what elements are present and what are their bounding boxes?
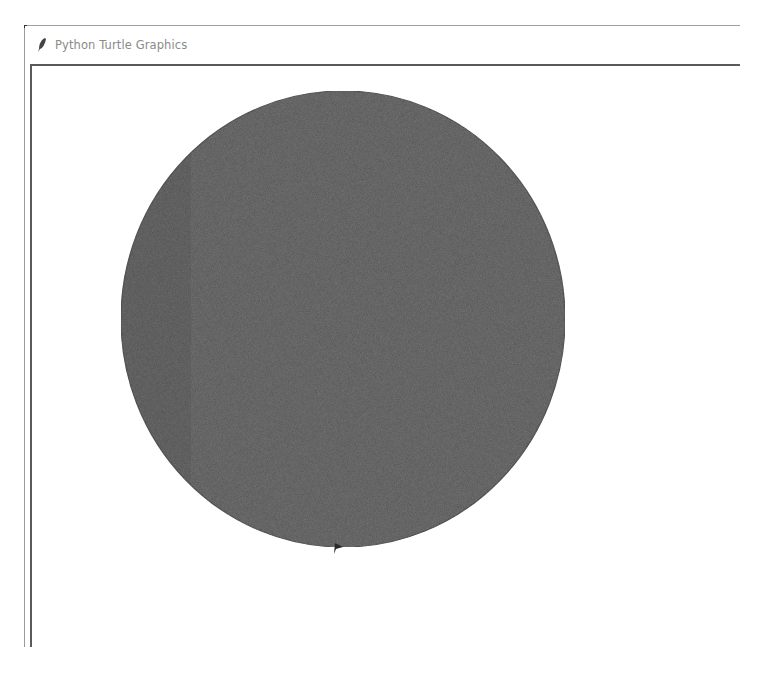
window-border-left: [24, 25, 25, 647]
turtle-graphics-window: Python Turtle Graphics: [24, 25, 740, 647]
title-bar[interactable]: Python Turtle Graphics: [25, 26, 740, 63]
drawing-surface: [32, 66, 740, 647]
left-shade-band: [121, 126, 191, 506]
turtle-canvas[interactable]: [30, 64, 740, 647]
feather-icon: [35, 36, 49, 54]
window-title: Python Turtle Graphics: [55, 38, 187, 52]
